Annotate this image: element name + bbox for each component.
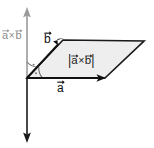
axis-upper-half — [23, 7, 31, 78]
cross-product-figure: a×b |a×b| b a — [0, 0, 154, 148]
vector-b-symbol-axis: b — [15, 30, 21, 41]
vector-a-symbol-magnitude: a — [71, 55, 77, 67]
vector-diagram-canvas — [0, 0, 154, 148]
axis-lower-half — [23, 78, 31, 143]
label-vector-b: b — [44, 33, 51, 45]
right-angle-dot-upper-icon — [33, 64, 35, 66]
right-angle-dot-lower-icon — [35, 72, 37, 74]
vector-a-symbol-axis: a — [2, 30, 8, 41]
label-vector-a: a — [57, 82, 64, 94]
cross-operator-magnitude: × — [78, 55, 85, 66]
cross-operator-axis: × — [8, 31, 15, 41]
label-cross-product-axis: a×b — [2, 30, 22, 41]
magnitude-bar-right: | — [91, 53, 94, 68]
vector-a-symbol: a — [57, 82, 64, 94]
label-cross-product-magnitude: |a×b| — [68, 54, 94, 67]
vector-b-symbol: b — [44, 33, 51, 45]
